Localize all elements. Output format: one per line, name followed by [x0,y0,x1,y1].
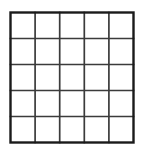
grid-cell[interactable] [60,13,85,39]
grid-cell[interactable] [11,91,36,117]
grid-cell[interactable] [11,13,36,39]
grid-cell[interactable] [60,39,85,65]
grid-cell[interactable] [60,65,85,91]
grid-cell[interactable] [11,39,36,65]
grid-cell[interactable] [109,39,134,65]
grid-cell[interactable] [35,65,60,91]
grid-cell[interactable] [35,91,60,117]
grid-cell[interactable] [60,91,85,117]
grid-cell[interactable] [35,39,60,65]
grid-cell[interactable] [60,117,85,143]
grid-cell[interactable] [84,117,109,143]
grid-cell[interactable] [84,13,109,39]
grid-cell[interactable] [11,117,36,143]
grid-cell[interactable] [35,13,60,39]
grid-cell[interactable] [109,65,134,91]
grid-cell[interactable] [84,65,109,91]
grid-figure [0,0,143,151]
grid-cell[interactable] [109,91,134,117]
grid-cell[interactable] [109,13,134,39]
grid-cell-layer [11,13,134,143]
grid-cell[interactable] [84,91,109,117]
grid-cell[interactable] [11,65,36,91]
grid-cell[interactable] [84,39,109,65]
grid-cell[interactable] [109,117,134,143]
grid-cell[interactable] [35,117,60,143]
grid-diagram [0,0,143,151]
